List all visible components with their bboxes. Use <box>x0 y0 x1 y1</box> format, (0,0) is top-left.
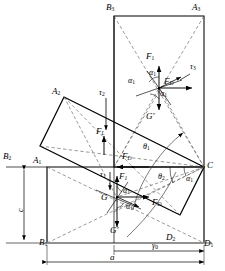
force-FD-low-label: FD <box>152 198 161 208</box>
centroid-G-label: G <box>101 193 108 202</box>
vertex-D1-label: D1 <box>204 239 213 249</box>
force-F1-top-label: F1 <box>146 52 154 62</box>
dimension-a-label: a <box>110 253 115 262</box>
vertex-D2-label: D2 <box>166 233 175 243</box>
rotation-arcs <box>127 133 183 237</box>
angle-alpha1-top-left-label: α1 <box>128 77 135 86</box>
angle-alpha1-low-upper-label: α1 <box>123 187 130 196</box>
figure-canvas: B3 A3 F1 α1 α1 FD τ3 α1 G' A2 τ2 FL θ1 F… <box>0 0 225 271</box>
dimension-c-label: c <box>17 208 25 212</box>
force-FD-mid-label: FD <box>122 152 131 162</box>
force-cluster-position-3 <box>136 66 192 110</box>
angle-theta2-label: θ2 <box>158 173 165 182</box>
force-FD-mid-arrow <box>117 166 149 168</box>
vertex-A1-label: A1 <box>33 156 41 166</box>
vertex-A3-label: A3 <box>192 3 200 13</box>
force-FD-top-label: FD <box>164 77 173 87</box>
vertex-B2-label: B2 <box>3 152 11 162</box>
angle-alpha1-top-upper-label: α1 <box>149 69 156 78</box>
angle-alpha1-C-label: α1 <box>186 175 193 184</box>
weight-Gprime-low-label: G' <box>110 226 118 235</box>
centroid-construction <box>64 88 204 196</box>
vertex-C-label: C <box>207 161 213 170</box>
vertex-B3-label: B3 <box>106 3 114 13</box>
weight-Gprime-top-label: G' <box>146 112 154 121</box>
angle-theta1-label: θ1 <box>143 143 150 152</box>
vertex-A2-label: A2 <box>52 87 60 97</box>
angle-arcs-at-C <box>170 167 186 183</box>
force-FL-label: FL <box>96 127 105 137</box>
torque-tau1-label: τ1 <box>100 171 106 180</box>
force-F1-low-label: F1 <box>119 172 127 182</box>
dimension-gamma0-label: γ0 <box>152 242 158 251</box>
torque-tau2-label: τ2 <box>99 89 105 98</box>
angle-alpha1-top-lower-label: α1 <box>160 90 167 99</box>
torque-tau3-label: τ3 <box>190 63 196 72</box>
angle-alpha1-low-lower-label: α1 <box>126 203 133 212</box>
vertex-B1-label: B1 <box>39 238 47 248</box>
torque-tau3-leader <box>180 74 190 80</box>
dimension-a-line <box>47 245 204 265</box>
ground-line <box>6 167 212 243</box>
